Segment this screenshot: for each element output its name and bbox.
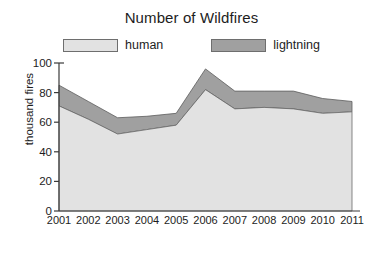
area-series-group (59, 69, 352, 211)
chart-plot-area (0, 0, 383, 253)
wildfires-area-chart: Number of Wildfires human lightning thou… (0, 0, 383, 253)
